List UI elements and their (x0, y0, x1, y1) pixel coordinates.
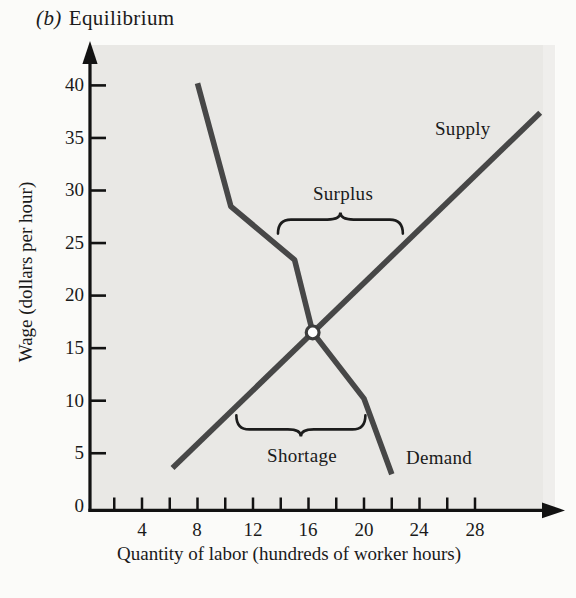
y-tick-label-0: 0 (38, 495, 84, 517)
equilibrium-point (306, 326, 319, 339)
x-tick-label-20: 20 (355, 519, 374, 541)
y-axis-label: Wage (dollars per hour) (15, 182, 37, 362)
surplus-annotation-label: Surplus (313, 183, 373, 205)
x-axis-label: Quantity of labor (hundreds of worker ho… (117, 543, 461, 565)
scan-artifact-band (543, 45, 556, 510)
x-tick-label-16: 16 (299, 519, 318, 541)
y-tick-label-5: 5 (38, 442, 84, 464)
chart-canvas (0, 0, 576, 598)
y-tick-label-25: 25 (38, 232, 84, 254)
supply-curve-label: Supply (435, 118, 491, 140)
demand-curve-label: Demand (406, 447, 472, 469)
y-tick-label-20: 20 (38, 284, 84, 306)
y-tick-label-35: 35 (38, 127, 84, 149)
x-tick-label-24: 24 (410, 519, 429, 541)
x-tick-label-8: 8 (192, 519, 202, 541)
y-tick-label-30: 30 (38, 179, 84, 201)
x-tick-label-28: 28 (466, 519, 485, 541)
figure-title-index: (b) (36, 6, 62, 30)
figure-title-text: Equilibrium (69, 6, 175, 30)
y-tick-label-40: 40 (38, 74, 84, 96)
y-tick-label-10: 10 (38, 390, 84, 412)
x-tick-label-12: 12 (244, 519, 263, 541)
figure-panel: (b)Equilibrium Wage (dollars per hour) Q… (0, 0, 576, 598)
x-tick-label-4: 4 (137, 519, 147, 541)
y-tick-label-15: 15 (38, 337, 84, 359)
shortage-annotation-label: Shortage (267, 445, 337, 467)
figure-title: (b)Equilibrium (36, 6, 175, 31)
plot-area-background (88, 45, 555, 510)
